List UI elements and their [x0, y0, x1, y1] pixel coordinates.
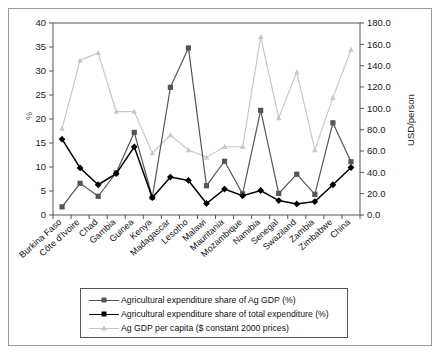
y-axis-tick-label-right: 40.0	[367, 167, 386, 178]
y-axis-tick-label-right: 180.0	[367, 17, 391, 28]
legend-item-total-expenditure-share: Agricultural expenditure share of total …	[87, 307, 341, 321]
data-point-square	[222, 159, 227, 164]
y-axis-tick-label-right: 100.0	[367, 103, 391, 114]
legend-item-ag-gdp-share: Agricultural expenditure share of Ag GDP…	[87, 293, 341, 307]
data-point-square	[77, 181, 82, 186]
y-axis-tick-label-left: 5	[41, 185, 46, 196]
data-point-square	[186, 45, 191, 50]
legend-marker-triangle-icon	[87, 322, 121, 334]
data-point-square	[294, 172, 299, 177]
legend-marker-square-icon	[87, 294, 121, 306]
legend-marker-diamond-icon	[87, 308, 121, 320]
x-axis-tick-label: China	[328, 217, 352, 240]
y-axis-tick-label-left: 30	[35, 65, 46, 76]
data-point-square	[96, 194, 101, 199]
data-point-square	[258, 108, 263, 113]
y-axis-title-right: USD/person	[405, 94, 416, 146]
y-axis-tick-label-left: 40	[35, 17, 46, 28]
y-axis-tick-label-right: 160.0	[367, 39, 391, 50]
y-axis-title-left: %	[24, 112, 34, 120]
y-axis-tick-label-right: 140.0	[367, 60, 391, 71]
legend-label: Agricultural expenditure share of Ag GDP…	[121, 295, 296, 305]
data-point-square	[348, 159, 353, 164]
chart-legend: Agricultural expenditure share of Ag GDP…	[80, 288, 348, 338]
y-axis-tick-label-left: 15	[35, 137, 46, 148]
data-point-square	[312, 192, 317, 197]
data-point-square	[132, 130, 137, 135]
y-axis-tick-label-left: 20	[35, 113, 46, 124]
data-point-square	[330, 120, 335, 125]
legend-label: Agricultural expenditure share of total …	[121, 309, 329, 319]
legend-label: Ag GDP per capita ($ constant 2000 price…	[121, 323, 289, 333]
y-axis-tick-label-left: 25	[35, 89, 46, 100]
y-axis-tick-label-left: 35	[35, 41, 46, 52]
data-point-square	[276, 191, 281, 196]
legend-item-ag-gdp-per-capita: Ag GDP per capita ($ constant 2000 price…	[87, 321, 341, 335]
y-axis-tick-label-left: 10	[35, 161, 46, 172]
y-axis-tick-label-right: 0.0	[367, 209, 380, 220]
x-axis-label-group: China	[328, 217, 352, 240]
y-axis-tick-label-right: 120.0	[367, 81, 391, 92]
y-axis-tick-label-right: 20.0	[367, 188, 386, 199]
data-point-square	[204, 183, 209, 188]
y-axis-tick-label-right: 80.0	[367, 124, 386, 135]
y-axis-tick-label-right: 60.0	[367, 145, 386, 156]
y-axis-tick-label-left: 0	[41, 209, 46, 220]
data-point-square	[168, 85, 173, 90]
data-point-square	[59, 204, 64, 209]
